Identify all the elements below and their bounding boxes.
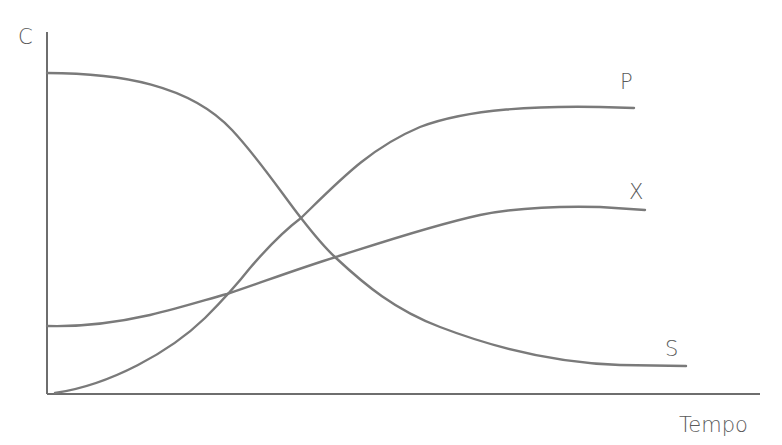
series-s-label: S	[665, 337, 678, 361]
series-p-label: P	[620, 70, 633, 94]
concentration-time-chart: C Tempo P X S	[0, 0, 782, 445]
series-x-label: X	[629, 180, 643, 204]
y-axis-label: C	[18, 25, 33, 49]
x-axis-label: Tempo	[679, 413, 748, 437]
series-s-curve	[47, 73, 686, 366]
series-p-curve	[55, 107, 634, 393]
